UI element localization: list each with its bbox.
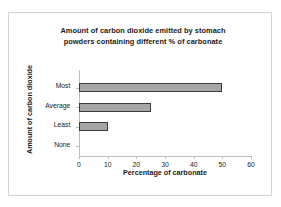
bar-band: None: [79, 137, 251, 157]
x-axis-title: Percentage of carbonate: [79, 168, 251, 177]
bar-band: Least: [79, 117, 251, 137]
bar: [79, 83, 222, 92]
x-axis-tick: [194, 156, 195, 159]
bar: [79, 122, 108, 131]
chart-title-line-1: Amount of carbon dioxide emitted by stom…: [29, 26, 257, 37]
y-axis-tick-label: Most: [56, 82, 71, 89]
y-axis-title: Amount of carbon dioxide: [25, 54, 34, 166]
bar-band: Average: [79, 98, 251, 118]
x-axis-tick: [222, 156, 223, 159]
x-axis-tick: [165, 156, 166, 159]
y-axis-tick-label: Average: [45, 102, 70, 109]
bar: [79, 103, 151, 112]
x-axis-tick-label: 30: [152, 161, 178, 168]
x-axis-tick-label: 0: [66, 161, 92, 168]
x-axis-tick: [108, 156, 109, 159]
chart-frame: Amount of carbon dioxide emitted by stom…: [8, 12, 272, 196]
x-axis-tick-label: 60: [238, 161, 264, 168]
x-axis-tick: [251, 156, 252, 159]
chart-title: Amount of carbon dioxide emitted by stom…: [29, 26, 257, 47]
x-axis-tick: [79, 156, 80, 159]
y-axis-tick-label: None: [54, 141, 70, 148]
x-axis-tick-label: 50: [209, 161, 235, 168]
y-axis-tick: [76, 146, 79, 147]
x-axis-tick-label: 40: [181, 161, 207, 168]
bar-band: Most: [79, 78, 251, 98]
x-axis-tick-label: 10: [95, 161, 121, 168]
y-axis-tick-label: Least: [54, 121, 71, 128]
plot-area: MostAverageLeastNone 0102030405060: [79, 78, 251, 156]
chart-title-line-2: powders containing different % of carbon…: [29, 37, 257, 48]
x-axis-tick: [136, 156, 137, 159]
x-axis-tick-label: 20: [123, 161, 149, 168]
